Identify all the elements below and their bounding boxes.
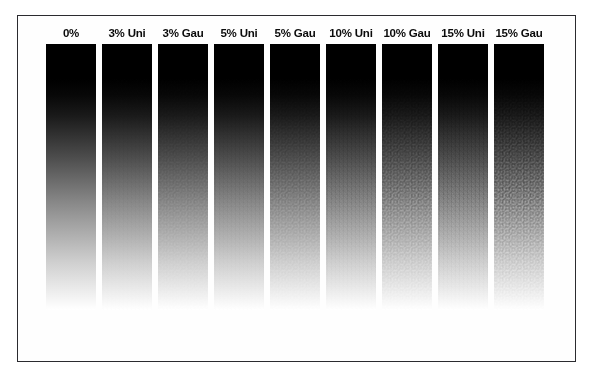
gradient-ramp xyxy=(270,44,320,310)
swatch-column-8: 15% Gau xyxy=(494,27,544,310)
swatch-label: 3% Uni xyxy=(102,27,152,40)
swatch-gradient-bar xyxy=(438,44,488,310)
swatch-label: 0% xyxy=(46,27,96,40)
swatch-column-4: 5% Gau xyxy=(270,27,320,310)
gradient-ramp xyxy=(158,44,208,310)
swatch-column-0: 0% xyxy=(46,27,96,310)
gradient-ramp xyxy=(494,44,544,310)
swatch-label: 15% Gau xyxy=(494,27,544,40)
swatch-column-6: 10% Gau xyxy=(382,27,432,310)
swatch-gradient-bar xyxy=(270,44,320,310)
swatch-gradient-bar xyxy=(382,44,432,310)
swatch-column-2: 3% Gau xyxy=(158,27,208,310)
swatch-gradient-bar xyxy=(326,44,376,310)
swatch-column-1: 3% Uni xyxy=(102,27,152,310)
gradient-ramp xyxy=(102,44,152,310)
figure-root: 0% 3% Uni 3% Gau xyxy=(0,0,593,377)
plate-frame: 0% 3% Uni 3% Gau xyxy=(17,15,576,362)
swatch-label: 15% Uni xyxy=(438,27,488,40)
swatch-gradient-bar xyxy=(158,44,208,310)
gradient-ramp xyxy=(326,44,376,310)
swatch-label: 5% Uni xyxy=(214,27,264,40)
gradient-ramp xyxy=(382,44,432,310)
swatch-gradient-bar xyxy=(494,44,544,310)
swatch-column-3: 5% Uni xyxy=(214,27,264,310)
gradient-ramp xyxy=(438,44,488,310)
swatch-label: 3% Gau xyxy=(158,27,208,40)
swatch-column-7: 15% Uni xyxy=(438,27,488,310)
swatch-gradient-bar xyxy=(102,44,152,310)
gradient-ramp xyxy=(214,44,264,310)
swatch-label: 10% Gau xyxy=(382,27,432,40)
gradient-ramp xyxy=(46,44,96,310)
swatch-gradient-bar xyxy=(46,44,96,310)
swatch-gradient-bar xyxy=(214,44,264,310)
swatch-label: 5% Gau xyxy=(270,27,320,40)
swatch-row: 0% 3% Uni 3% Gau xyxy=(18,16,575,361)
swatch-label: 10% Uni xyxy=(326,27,376,40)
swatch-column-5: 10% Uni xyxy=(326,27,376,310)
